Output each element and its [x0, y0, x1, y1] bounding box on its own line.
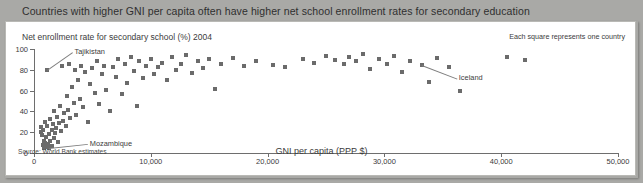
data-point — [53, 131, 57, 135]
data-point — [392, 54, 396, 58]
data-point — [129, 55, 133, 59]
data-point — [41, 128, 45, 132]
data-point — [377, 57, 381, 61]
y-axis-tick-label: 80 — [20, 65, 28, 74]
data-point — [156, 65, 160, 69]
data-point — [400, 70, 404, 74]
data-point — [56, 140, 60, 144]
data-point — [65, 94, 69, 98]
data-point — [385, 62, 389, 66]
data-point — [132, 69, 136, 73]
data-point — [83, 70, 87, 74]
data-point — [93, 91, 97, 95]
data-point — [81, 105, 85, 109]
data-point — [160, 61, 164, 65]
data-point — [435, 56, 439, 60]
y-axis-tick — [30, 111, 34, 112]
data-point — [312, 61, 316, 65]
data-point — [368, 67, 372, 71]
y-axis-tick — [30, 132, 34, 133]
y-axis-title: Net enrollment rate for secondary school… — [22, 32, 212, 42]
y-axis-line — [34, 49, 35, 153]
data-point — [72, 101, 76, 105]
data-point — [242, 64, 246, 68]
y-axis-tick-label: 40 — [20, 107, 28, 116]
data-point — [141, 76, 145, 80]
data-point — [179, 62, 183, 66]
data-point — [48, 117, 52, 121]
data-point — [447, 65, 451, 69]
data-point — [74, 113, 78, 117]
data-point — [54, 126, 58, 130]
y-axis-tick-label: 20 — [20, 128, 28, 137]
data-point — [196, 59, 200, 63]
data-point — [55, 115, 59, 119]
data-point — [135, 104, 139, 108]
data-point — [120, 92, 124, 96]
data-point — [190, 71, 194, 75]
data-point — [165, 78, 169, 82]
scatter-plot-area: 020406080100010,00020,00030,00040,00050,… — [34, 49, 618, 153]
data-point — [100, 72, 104, 76]
data-point — [70, 85, 74, 89]
data-point — [45, 124, 49, 128]
data-point — [67, 62, 71, 66]
data-point — [254, 59, 258, 63]
data-point — [108, 109, 112, 113]
y-axis-tick-label: 100 — [15, 45, 28, 54]
data-point — [76, 78, 80, 82]
data-point — [97, 102, 101, 106]
y-axis-tick-label: 60 — [20, 86, 28, 95]
data-point — [137, 59, 141, 63]
data-point — [78, 97, 82, 101]
data-point — [79, 64, 83, 68]
data-point — [523, 58, 527, 62]
data-point — [104, 88, 108, 92]
data-point — [174, 68, 178, 72]
y-axis-tick — [30, 70, 34, 71]
data-point — [458, 89, 462, 93]
x-axis-tick-label: 50,000 — [607, 157, 630, 166]
annotation-leader-line — [421, 65, 456, 79]
data-point — [68, 116, 72, 120]
data-point — [301, 57, 305, 61]
x-axis-tick-label: 10,000 — [139, 157, 162, 166]
data-point — [170, 55, 174, 59]
header-band: Countries with higher GNI per capita oft… — [0, 0, 643, 22]
data-point — [231, 56, 235, 60]
data-point — [207, 57, 211, 61]
data-point — [342, 62, 346, 66]
data-point — [354, 59, 358, 63]
data-point — [102, 64, 106, 68]
data-point — [114, 75, 118, 79]
page-title: Countries with higher GNI per capita oft… — [22, 3, 530, 19]
y-axis-tick — [30, 91, 34, 92]
data-point — [324, 54, 328, 58]
data-point — [64, 124, 68, 128]
x-axis-tick-label: 40,000 — [490, 157, 513, 166]
data-point — [201, 66, 205, 70]
data-point — [59, 129, 63, 133]
x-axis-tick-label: 20,000 — [256, 157, 279, 166]
data-point — [90, 66, 94, 70]
figure-container: Countries with higher GNI per capita oft… — [0, 0, 643, 183]
data-point — [505, 55, 509, 59]
x-axis-tick-label: 30,000 — [373, 157, 396, 166]
data-point — [73, 68, 77, 72]
data-point — [333, 58, 337, 62]
data-point — [283, 65, 287, 69]
data-point — [95, 59, 99, 63]
data-point — [66, 108, 70, 112]
data-point — [213, 87, 217, 91]
data-point — [61, 119, 65, 123]
data-point — [88, 82, 92, 86]
data-point — [125, 81, 129, 85]
data-point — [408, 59, 412, 63]
marker-legend-note: Each square represents one country — [509, 32, 625, 41]
data-point — [86, 120, 90, 124]
data-point — [116, 57, 120, 61]
data-point — [58, 104, 62, 108]
data-point — [347, 55, 351, 59]
data-point — [123, 62, 127, 66]
annotation-label: Tajikistan — [75, 47, 105, 56]
